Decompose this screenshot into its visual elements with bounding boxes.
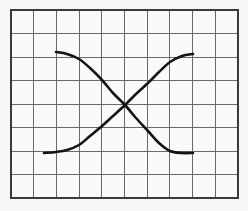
chart-figure (0, 0, 248, 211)
chart-canvas (0, 0, 248, 211)
